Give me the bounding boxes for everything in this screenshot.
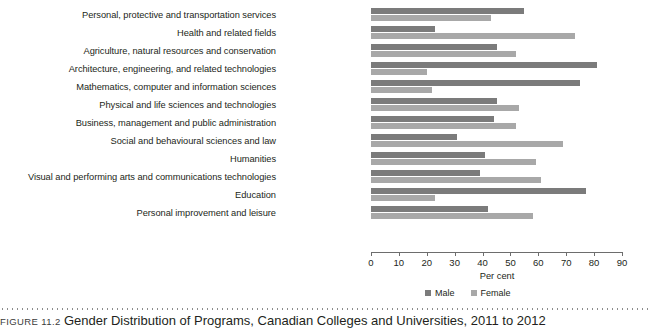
chart-row: Social and behavioural sciences and law — [0, 132, 650, 150]
legend-item-male[interactable]: Male — [425, 288, 455, 298]
x-axis-tick-label: 0 — [356, 257, 386, 268]
x-axis-tick — [371, 252, 372, 256]
category-label: Education — [235, 190, 276, 201]
figure-number: FIGURE 11.2 — [0, 316, 61, 327]
bar-female — [371, 123, 516, 129]
chart-row: Physical and life sciences and technolog… — [0, 96, 650, 114]
bar-group — [371, 168, 650, 186]
figure-container: Personal, protective and transportation … — [0, 0, 650, 330]
bar-male — [371, 188, 586, 194]
chart-row: Architecture, engineering, and related t… — [0, 60, 650, 78]
category-label: Health and related fields — [177, 28, 276, 39]
bar-male — [371, 98, 497, 104]
bar-male — [371, 8, 524, 14]
bar-female — [371, 105, 519, 111]
bar-group — [371, 132, 650, 150]
x-axis-tick — [594, 252, 595, 256]
bar-male — [371, 62, 597, 68]
x-axis-tick — [483, 252, 484, 256]
bar-male — [371, 170, 480, 176]
bar-female — [371, 87, 432, 93]
x-axis-tick-label: 80 — [579, 257, 609, 268]
bar-group — [371, 6, 650, 24]
bar-female — [371, 33, 575, 39]
chart-row: Business, management and public administ… — [0, 114, 650, 132]
chart-plot-area: Personal, protective and transportation … — [0, 0, 650, 252]
x-axis-tick-label: 20 — [412, 257, 442, 268]
bar-male — [371, 26, 435, 32]
x-axis-tick-label: 30 — [440, 257, 470, 268]
category-label: Architecture, engineering, and related t… — [69, 64, 276, 75]
bar-female — [371, 159, 536, 165]
bar-group — [371, 78, 650, 96]
category-label: Physical and life sciences and technolog… — [99, 100, 276, 111]
bar-group — [371, 150, 650, 168]
x-axis-tick — [455, 252, 456, 256]
bar-male — [371, 80, 580, 86]
bar-rows: Personal, protective and transportation … — [0, 6, 650, 222]
category-label: Visual and performing arts and communica… — [28, 172, 276, 183]
chart-row: Mathematics, computer and information sc… — [0, 78, 650, 96]
x-axis-tick — [538, 252, 539, 256]
legend-swatch-icon — [471, 290, 477, 296]
legend-label: Male — [435, 288, 455, 298]
bar-group — [371, 42, 650, 60]
bar-female — [371, 15, 491, 21]
category-label: Personal, protective and transportation … — [82, 10, 276, 21]
x-axis-tick-label: 70 — [551, 257, 581, 268]
x-axis-tick-label: 10 — [384, 257, 414, 268]
figure-title: Gender Distribution of Programs, Canadia… — [64, 313, 546, 328]
bar-male — [371, 206, 488, 212]
x-axis-tick — [566, 252, 567, 256]
chart-row: Visual and performing arts and communica… — [0, 168, 650, 186]
bar-group — [371, 186, 650, 204]
figure-caption: FIGURE 11.2 Gender Distribution of Progr… — [0, 313, 650, 328]
chart-row: Personal improvement and leisure — [0, 204, 650, 222]
bar-female — [371, 69, 427, 75]
bar-female — [371, 213, 533, 219]
category-label: Mathematics, computer and information sc… — [76, 82, 276, 93]
chart-row: Agriculture, natural resources and conse… — [0, 42, 650, 60]
bar-male — [371, 116, 494, 122]
bar-group — [371, 24, 650, 42]
bar-female — [371, 141, 563, 147]
category-label: Personal improvement and leisure — [137, 208, 276, 219]
bar-female — [371, 195, 435, 201]
caption-divider — [0, 308, 650, 310]
category-label: Business, management and public administ… — [76, 118, 276, 129]
x-axis-line — [371, 252, 623, 253]
chart-legend: MaleFemale — [425, 288, 511, 298]
bar-female — [371, 177, 541, 183]
category-label: Agriculture, natural resources and conse… — [84, 46, 276, 57]
legend-swatch-icon — [425, 290, 431, 296]
x-axis-tick — [399, 252, 400, 256]
bar-male — [371, 44, 497, 50]
bar-male — [371, 152, 485, 158]
legend-item-female[interactable]: Female — [471, 288, 511, 298]
x-axis-tick-label: 60 — [523, 257, 553, 268]
x-axis-tick — [510, 252, 511, 256]
bar-group — [371, 60, 650, 78]
legend-label: Female — [481, 288, 511, 298]
bar-female — [371, 51, 516, 57]
chart-row: Personal, protective and transportation … — [0, 6, 650, 24]
x-axis-tick-label: 40 — [468, 257, 498, 268]
x-axis-tick — [622, 252, 623, 256]
x-axis-tick-label: 50 — [495, 257, 525, 268]
x-axis-tick — [427, 252, 428, 256]
bar-group — [371, 204, 650, 222]
category-label: Humanities — [230, 154, 276, 165]
chart-row: Education — [0, 186, 650, 204]
bar-male — [371, 134, 457, 140]
chart-row: Humanities — [0, 150, 650, 168]
category-label: Social and behavioural sciences and law — [111, 136, 277, 147]
bar-group — [371, 96, 650, 114]
chart-row: Health and related fields — [0, 24, 650, 42]
x-axis-title: Per cent — [371, 271, 623, 281]
bar-group — [371, 114, 650, 132]
x-axis-tick-label: 90 — [607, 257, 637, 268]
